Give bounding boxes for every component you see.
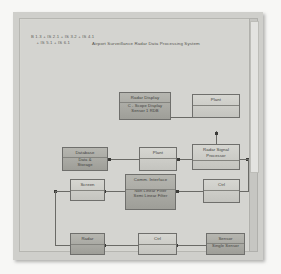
page-title: Airport Surveillance Radar Data Processi…: [92, 41, 252, 47]
connector-comm-ctrl: [178, 191, 203, 192]
block-title: Radar Signal: [193, 145, 239, 153]
block-title: Plant: [193, 95, 239, 103]
block-title: Screen: [71, 180, 104, 188]
connector-feedback-top: [56, 191, 70, 192]
block-subtitle-2: Storage: [63, 162, 107, 167]
application-panel: B 1.3 + IS 2.1 + IS 3.2 + IS 4.1 + IS 5.…: [13, 12, 263, 260]
block-comm-interface[interactable]: Comm. Interface Non Linear Filter Semi L…: [125, 174, 176, 210]
scrollbar-thumb[interactable]: [250, 21, 259, 173]
block-ctrl-mid[interactable]: Ctrl: [203, 179, 240, 203]
block-plant-mid[interactable]: Plant: [139, 147, 177, 171]
screenshot-root: B 1.3 + IS 2.1 + IS 3.2 + IS 4.1 + IS 5.…: [0, 0, 281, 274]
block-subtitle-2: Sensor 1 RDB: [120, 108, 170, 113]
vertical-scrollbar[interactable]: [249, 18, 258, 252]
block-title: Database: [63, 148, 107, 156]
block-plant-top[interactable]: Plant: [192, 94, 240, 118]
block-radar-signal-processor[interactable]: Radar Signal Processor: [192, 144, 240, 170]
connector-node: [215, 132, 218, 135]
block-subtitle-1: Processor: [193, 153, 239, 158]
block-ctrl-bottom[interactable]: Ctrl: [138, 233, 177, 255]
connector-ctrl-sensor: [177, 245, 206, 246]
connector-node: [176, 190, 179, 193]
connector-radar-ctrl: [105, 245, 138, 246]
block-database[interactable]: Database Data & Storage: [62, 147, 108, 171]
block-title: Radar Display: [120, 93, 170, 101]
connector-feedback-bottom: [55, 245, 70, 246]
block-subtitle-2: Semi Linear Filter: [126, 193, 175, 198]
block-screen[interactable]: Screen: [70, 179, 105, 201]
block-sensor[interactable]: Sensor Single Sensor: [206, 233, 245, 255]
block-title: Plant: [140, 148, 176, 156]
diagram-canvas[interactable]: B 1.3 + IS 2.1 + IS 3.2 + IS 4.1 + IS 5.…: [19, 18, 250, 252]
block-title: Radar: [71, 234, 104, 242]
block-radar[interactable]: Radar: [70, 233, 105, 255]
block-title: Comm. Interface: [126, 175, 175, 183]
block-title: Ctrl: [139, 234, 176, 242]
block-radar-display[interactable]: Radar Display C - Scope Display Sensor 1…: [119, 92, 171, 120]
connector-node: [108, 158, 111, 161]
block-title: Ctrl: [204, 180, 239, 188]
connector-feedback-vert: [55, 191, 56, 245]
connector-database-plant: [110, 159, 139, 160]
connector-screen-comm: [105, 191, 125, 192]
block-title: Sensor: [207, 234, 244, 242]
connector-node: [177, 158, 180, 161]
